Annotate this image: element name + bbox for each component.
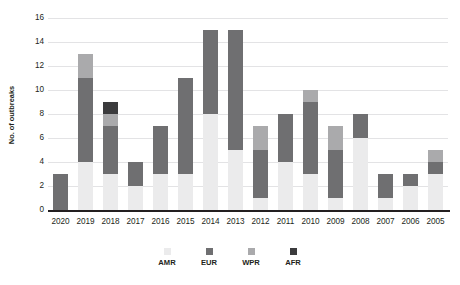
y-axis-tick-labels: 0246810121416 bbox=[14, 18, 44, 210]
bar-segment-eur[interactable] bbox=[303, 102, 318, 174]
stacked-bar-chart: No. of outbreaks 0246810121416 202020192… bbox=[0, 0, 460, 285]
bar-stack[interactable] bbox=[378, 174, 393, 210]
bar-segment-wpr[interactable] bbox=[78, 54, 93, 78]
bar-segment-eur[interactable] bbox=[353, 114, 368, 138]
bar-column[interactable] bbox=[373, 18, 398, 210]
legend-swatch-icon bbox=[164, 248, 171, 255]
bar-stack[interactable] bbox=[53, 174, 68, 210]
bar-stack[interactable] bbox=[178, 78, 193, 210]
bar-segment-eur[interactable] bbox=[278, 114, 293, 162]
bar-segment-eur[interactable] bbox=[153, 126, 168, 174]
bar-stack[interactable] bbox=[253, 126, 268, 210]
bar-column[interactable] bbox=[348, 18, 373, 210]
legend-item-afr[interactable]: AFR bbox=[280, 248, 306, 267]
bar-segment-eur[interactable] bbox=[178, 78, 193, 174]
bar-column[interactable] bbox=[98, 18, 123, 210]
y-axis-tick-label: 10 bbox=[18, 86, 44, 94]
bar-column[interactable] bbox=[423, 18, 448, 210]
bar-column[interactable] bbox=[198, 18, 223, 210]
legend-swatch-icon bbox=[206, 248, 213, 255]
bar-segment-amr[interactable] bbox=[328, 198, 343, 210]
x-axis-tick-label: 2006 bbox=[398, 215, 423, 229]
bar-column[interactable] bbox=[223, 18, 248, 210]
bar-segment-amr[interactable] bbox=[303, 174, 318, 210]
bar-column[interactable] bbox=[123, 18, 148, 210]
bar-column[interactable] bbox=[148, 18, 173, 210]
legend-label: AMR bbox=[158, 258, 175, 267]
bar-column[interactable] bbox=[398, 18, 423, 210]
bar-series-container bbox=[48, 18, 448, 210]
bar-stack[interactable] bbox=[428, 150, 443, 210]
bar-segment-amr[interactable] bbox=[278, 162, 293, 210]
bar-column[interactable] bbox=[298, 18, 323, 210]
bar-segment-amr[interactable] bbox=[353, 138, 368, 210]
bar-stack[interactable] bbox=[278, 114, 293, 210]
bar-segment-amr[interactable] bbox=[428, 174, 443, 210]
x-axis-tick-label: 2007 bbox=[373, 215, 398, 229]
bar-column[interactable] bbox=[173, 18, 198, 210]
bar-stack[interactable] bbox=[203, 30, 218, 210]
x-axis-tick-label: 2010 bbox=[298, 215, 323, 229]
bar-stack[interactable] bbox=[128, 162, 143, 210]
bar-column[interactable] bbox=[323, 18, 348, 210]
bar-column[interactable] bbox=[273, 18, 298, 210]
bar-segment-amr[interactable] bbox=[228, 150, 243, 210]
bar-segment-amr[interactable] bbox=[103, 174, 118, 210]
bar-segment-afr[interactable] bbox=[103, 102, 118, 114]
bar-stack[interactable] bbox=[228, 30, 243, 210]
x-axis-tick-label: 2011 bbox=[273, 215, 298, 229]
bar-stack[interactable] bbox=[103, 102, 118, 210]
bar-stack[interactable] bbox=[403, 174, 418, 210]
x-axis-tick-label: 2016 bbox=[148, 215, 173, 229]
bar-segment-wpr[interactable] bbox=[303, 90, 318, 102]
legend-item-amr[interactable]: AMR bbox=[154, 248, 180, 267]
bar-segment-eur[interactable] bbox=[428, 162, 443, 174]
chart-legend: AMREURWPRAFR bbox=[0, 248, 460, 267]
bar-segment-eur[interactable] bbox=[253, 150, 268, 198]
bar-segment-amr[interactable] bbox=[253, 198, 268, 210]
bar-segment-eur[interactable] bbox=[203, 30, 218, 114]
x-axis-tick-label: 2012 bbox=[248, 215, 273, 229]
bar-segment-eur[interactable] bbox=[378, 174, 393, 198]
bar-segment-amr[interactable] bbox=[128, 186, 143, 210]
bar-segment-amr[interactable] bbox=[403, 186, 418, 210]
bar-segment-eur[interactable] bbox=[128, 162, 143, 186]
bar-stack[interactable] bbox=[328, 126, 343, 210]
bar-segment-amr[interactable] bbox=[78, 162, 93, 210]
bar-segment-eur[interactable] bbox=[403, 174, 418, 186]
bar-segment-wpr[interactable] bbox=[328, 126, 343, 150]
bar-segment-eur[interactable] bbox=[78, 78, 93, 162]
bar-segment-eur[interactable] bbox=[228, 30, 243, 150]
bar-column[interactable] bbox=[48, 18, 73, 210]
bar-segment-amr[interactable] bbox=[153, 174, 168, 210]
bar-segment-eur[interactable] bbox=[53, 174, 68, 210]
bar-column[interactable] bbox=[73, 18, 98, 210]
plot-area bbox=[48, 18, 448, 210]
legend-label: AFR bbox=[285, 258, 301, 267]
bar-stack[interactable] bbox=[303, 90, 318, 210]
bar-segment-amr[interactable] bbox=[378, 198, 393, 210]
y-axis-tick-label: 12 bbox=[18, 62, 44, 70]
x-axis-tick-label: 2015 bbox=[173, 215, 198, 229]
bar-column[interactable] bbox=[248, 18, 273, 210]
bar-segment-eur[interactable] bbox=[328, 150, 343, 198]
x-axis-tick-labels: 2020201920182017201620152014201320122011… bbox=[48, 215, 448, 229]
x-axis-baseline bbox=[48, 210, 450, 212]
bar-stack[interactable] bbox=[153, 126, 168, 210]
x-axis-tick-label: 2013 bbox=[223, 215, 248, 229]
bar-segment-wpr[interactable] bbox=[103, 114, 118, 126]
legend-label: WPR bbox=[242, 258, 260, 267]
legend-item-wpr[interactable]: WPR bbox=[238, 248, 264, 267]
bar-segment-wpr[interactable] bbox=[428, 150, 443, 162]
bar-segment-wpr[interactable] bbox=[253, 126, 268, 150]
y-axis-tick-label: 2 bbox=[18, 182, 44, 190]
legend-item-eur[interactable]: EUR bbox=[196, 248, 222, 267]
bar-stack[interactable] bbox=[78, 54, 93, 210]
bar-segment-eur[interactable] bbox=[103, 126, 118, 174]
bar-stack[interactable] bbox=[353, 114, 368, 210]
y-axis-tick-label: 16 bbox=[18, 14, 44, 22]
bar-segment-amr[interactable] bbox=[178, 174, 193, 210]
x-axis-tick-label: 2019 bbox=[73, 215, 98, 229]
bar-segment-amr[interactable] bbox=[203, 114, 218, 210]
x-axis-tick-label: 2008 bbox=[348, 215, 373, 229]
